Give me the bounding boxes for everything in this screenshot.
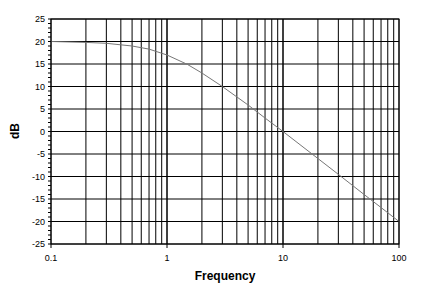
plot-grid (51, 19, 399, 244)
x-tick-label: 0.1 (45, 253, 58, 263)
y-tick-label: -5 (37, 149, 45, 159)
x-axis-title: Frequency (195, 269, 256, 283)
y-tick-label: -25 (32, 239, 45, 249)
y-tick-label: 0 (40, 127, 45, 137)
y-axis-tick-labels: 2520151050-5-10-15-20-25 (32, 14, 45, 249)
y-axis-ticks (48, 19, 399, 248)
x-tick-label: 1 (164, 253, 169, 263)
y-tick-label: 20 (35, 37, 45, 47)
y-tick-label: 10 (35, 82, 45, 92)
y-tick-label: -15 (32, 194, 45, 204)
y-tick-label: -20 (32, 217, 45, 227)
y-tick-label: -10 (32, 172, 45, 182)
y-tick-label: 25 (35, 14, 45, 24)
y-tick-label: 5 (40, 104, 45, 114)
x-tick-label: 100 (391, 253, 406, 263)
y-axis-title: dB (8, 123, 22, 139)
x-tick-label: 10 (278, 253, 288, 263)
bode-magnitude-chart: 2520151050-5-10-15-20-25 0.1110100 Frequ… (0, 0, 422, 298)
y-tick-label: 15 (35, 59, 45, 69)
x-axis-tick-labels: 0.1110100 (45, 253, 407, 263)
